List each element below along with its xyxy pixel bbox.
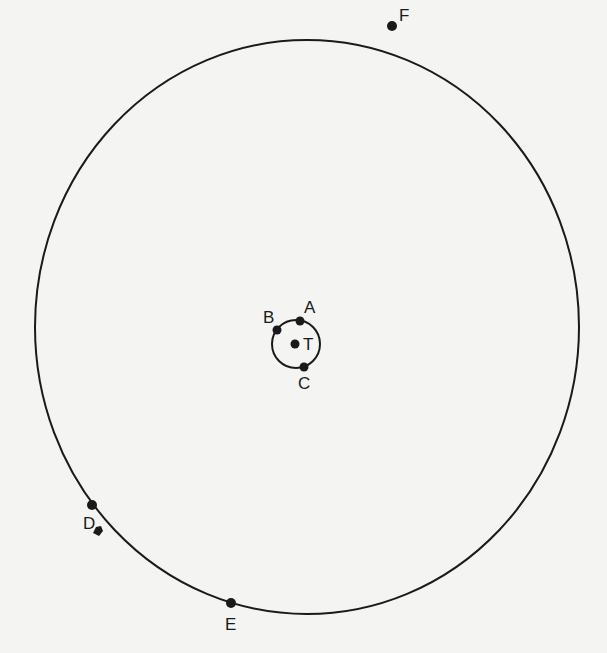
point-f-label: F: [399, 6, 409, 25]
point-center-t-label: T: [303, 335, 313, 354]
point-f-dot: [387, 21, 397, 31]
outer-orbit-circle: [35, 40, 579, 614]
point-e-label: E: [225, 615, 236, 634]
point-a-label: A: [304, 298, 316, 317]
point-b-label: B: [263, 308, 274, 327]
point-a-dot: [296, 317, 305, 326]
point-c-label: C: [298, 374, 310, 393]
points-layer: ABCFDET: [83, 6, 409, 634]
point-e-dot: [226, 598, 236, 608]
point-center-t-dot: [291, 340, 300, 349]
point-c-dot: [300, 363, 309, 372]
diagram-svg: ABCFDET: [0, 0, 607, 653]
orbit-diagram: ABCFDET: [0, 0, 607, 653]
point-d-label: D: [83, 514, 95, 533]
point-d-dot: [87, 500, 97, 510]
